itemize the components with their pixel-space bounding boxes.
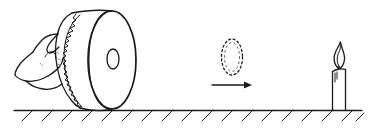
figure-canvas: Hand pushing a rolling wheel toward a ca… bbox=[0, 0, 373, 128]
motion-arrow-group bbox=[212, 82, 252, 89]
candle-body bbox=[333, 70, 346, 111]
ground-hatching bbox=[22, 110, 364, 121]
vortex-ring-inner bbox=[225, 43, 240, 72]
candle-flame bbox=[334, 42, 344, 68]
wheel-face-rim bbox=[89, 12, 107, 109]
hand-forearm bbox=[26, 81, 62, 89]
hand-palm-upper bbox=[15, 52, 33, 75]
wheel-group bbox=[56, 10, 137, 110]
ground-group bbox=[14, 110, 364, 121]
candle-group bbox=[333, 42, 346, 110]
wheel-hub-hole bbox=[107, 49, 119, 69]
wheel-rear-rim bbox=[56, 13, 81, 108]
wheel-front-face bbox=[88, 11, 136, 109]
candle-shading bbox=[335, 72, 337, 82]
vortex-ring-group bbox=[222, 39, 243, 75]
hand-shading bbox=[40, 52, 61, 66]
hand-wrist bbox=[15, 75, 48, 81]
motion-arrow-head bbox=[244, 82, 252, 89]
hand-index-finger bbox=[33, 34, 58, 52]
line-drawing bbox=[0, 0, 373, 128]
